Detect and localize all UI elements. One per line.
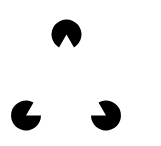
kanizsa-figure (0, 0, 161, 146)
